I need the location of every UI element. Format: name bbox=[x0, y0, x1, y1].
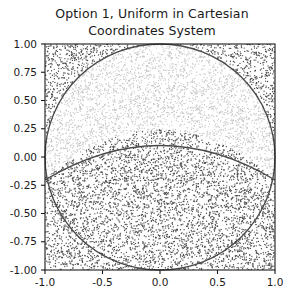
scatter-point bbox=[71, 168, 72, 169]
scatter-point bbox=[126, 130, 127, 131]
scatter-point bbox=[118, 164, 119, 165]
scatter-point bbox=[235, 53, 236, 54]
scatter-point bbox=[158, 166, 159, 167]
scatter-point bbox=[208, 172, 209, 173]
scatter-point bbox=[231, 227, 232, 228]
scatter-point bbox=[153, 184, 154, 185]
scatter-point bbox=[123, 51, 124, 52]
scatter-point bbox=[121, 183, 122, 184]
scatter-point bbox=[51, 63, 52, 64]
scatter-point bbox=[89, 216, 90, 217]
scatter-point bbox=[52, 246, 53, 247]
scatter-point bbox=[146, 121, 147, 122]
scatter-point bbox=[137, 194, 138, 195]
scatter-point bbox=[211, 52, 212, 53]
scatter-point bbox=[58, 71, 59, 72]
scatter-point bbox=[118, 247, 119, 248]
scatter-point bbox=[144, 192, 145, 193]
scatter-point bbox=[255, 203, 256, 204]
scatter-point bbox=[81, 169, 82, 170]
scatter-point bbox=[165, 175, 166, 176]
scatter-point bbox=[273, 127, 274, 128]
scatter-point bbox=[205, 253, 206, 254]
scatter-point bbox=[97, 140, 98, 141]
scatter-point bbox=[50, 251, 51, 252]
scatter-point bbox=[213, 250, 214, 251]
scatter-point bbox=[69, 256, 70, 257]
scatter-point bbox=[134, 63, 135, 64]
scatter-point bbox=[98, 104, 99, 105]
scatter-point bbox=[253, 126, 254, 127]
scatter-point bbox=[230, 260, 231, 261]
scatter-point bbox=[223, 240, 224, 241]
scatter-point bbox=[237, 134, 238, 135]
scatter-point bbox=[163, 49, 164, 50]
scatter-point bbox=[89, 146, 90, 147]
scatter-point bbox=[145, 111, 146, 112]
scatter-point bbox=[238, 141, 239, 142]
y-tick-label: 0.50 bbox=[14, 94, 37, 106]
scatter-point bbox=[80, 111, 81, 112]
scatter-point bbox=[90, 97, 91, 98]
scatter-point bbox=[234, 104, 235, 105]
scatter-point bbox=[75, 45, 76, 46]
scatter-point bbox=[94, 146, 95, 147]
scatter-point bbox=[241, 46, 242, 47]
scatter-point bbox=[273, 158, 274, 159]
scatter-point bbox=[69, 120, 70, 121]
scatter-point bbox=[244, 238, 245, 239]
scatter-point bbox=[121, 70, 122, 71]
scatter-point bbox=[243, 74, 244, 75]
scatter-point bbox=[53, 149, 54, 150]
scatter-point bbox=[263, 113, 264, 114]
scatter-point bbox=[219, 138, 220, 139]
scatter-point bbox=[267, 65, 268, 66]
scatter-point bbox=[165, 83, 166, 84]
scatter-point bbox=[143, 215, 144, 216]
scatter-point bbox=[247, 61, 248, 62]
scatter-point bbox=[62, 240, 63, 241]
scatter-point bbox=[66, 64, 67, 65]
scatter-point bbox=[184, 94, 185, 95]
scatter-point bbox=[270, 114, 271, 115]
scatter-point bbox=[209, 60, 210, 61]
scatter-point bbox=[192, 144, 193, 145]
scatter-point bbox=[177, 243, 178, 244]
scatter-point bbox=[167, 241, 168, 242]
scatter-point bbox=[208, 206, 209, 207]
scatter-point bbox=[115, 195, 116, 196]
scatter-point bbox=[135, 168, 136, 169]
scatter-point bbox=[108, 82, 109, 83]
scatter-point bbox=[51, 140, 52, 141]
scatter-point bbox=[196, 109, 197, 110]
scatter-point bbox=[46, 260, 47, 261]
scatter-point bbox=[253, 214, 254, 215]
scatter-point bbox=[232, 80, 233, 81]
scatter-point bbox=[262, 225, 263, 226]
scatter-point bbox=[171, 256, 172, 257]
scatter-point bbox=[270, 232, 271, 233]
scatter-point bbox=[72, 139, 73, 140]
scatter-point bbox=[97, 88, 98, 89]
scatter-point bbox=[178, 238, 179, 239]
scatter-point bbox=[203, 77, 204, 78]
scatter-point bbox=[157, 147, 158, 148]
scatter-point bbox=[87, 111, 88, 112]
scatter-point bbox=[266, 247, 267, 248]
scatter-point bbox=[84, 173, 85, 174]
scatter-point bbox=[108, 90, 109, 91]
scatter-point bbox=[150, 192, 151, 193]
scatter-point bbox=[115, 124, 116, 125]
scatter-point bbox=[235, 47, 236, 48]
scatter-point bbox=[234, 84, 235, 85]
scatter-point bbox=[56, 115, 57, 116]
scatter-point bbox=[171, 60, 172, 61]
scatter-point bbox=[231, 193, 232, 194]
scatter-point bbox=[229, 150, 230, 151]
scatter-point bbox=[218, 195, 219, 196]
scatter-point bbox=[198, 57, 199, 58]
scatter-point bbox=[178, 58, 179, 59]
scatter-point bbox=[114, 156, 115, 157]
scatter-point bbox=[246, 119, 247, 120]
scatter-point bbox=[191, 209, 192, 210]
